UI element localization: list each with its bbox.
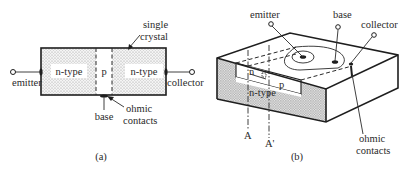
base-p-label: p	[101, 66, 106, 77]
base-label: base	[95, 111, 114, 122]
section-a-prime-label: A'	[265, 138, 275, 149]
ohmic-contacts-label-line1: ohmic	[359, 133, 386, 144]
base-terminal-icon	[336, 25, 341, 30]
ohmic-contacts-label-line2: contacts	[123, 115, 157, 126]
emitter-terminal-icon	[11, 70, 16, 75]
figure-a: n-type p n-type emitter collector base s…	[11, 19, 205, 163]
collector-terminal-icon	[372, 33, 377, 38]
base-label: base	[333, 9, 352, 20]
emitter-label: emitter	[12, 77, 42, 88]
single-crystal-label-line2: crystal	[140, 31, 168, 42]
section-a-label: A	[244, 130, 252, 141]
caption-b: (b)	[291, 151, 304, 163]
collector-n-type-label: n-type	[249, 87, 276, 98]
ohmic-contacts-label-line1: ohmic	[126, 103, 153, 114]
emitter-contact-icon	[39, 69, 42, 76]
caption-a: (a)	[95, 151, 107, 163]
base-p-label: p	[279, 79, 284, 90]
emitter-terminal-icon	[269, 22, 274, 27]
emitter-n-label: n	[249, 66, 255, 77]
emitter-label: emitter	[250, 9, 280, 20]
collector-n-type-label: n-type	[131, 66, 158, 77]
figure-b: emitter base collector n p n-type A A' o…	[217, 9, 398, 163]
collector-label: collector	[167, 77, 204, 88]
emitter-n-type-label: n-type	[56, 66, 83, 77]
collector-label: collector	[361, 19, 398, 30]
single-crystal-label-line1: single	[143, 19, 168, 30]
collector-terminal-icon	[190, 70, 195, 75]
ohmic-contacts-label-line2: contacts	[356, 145, 390, 156]
collector-contact-icon	[164, 69, 167, 76]
bjt-structure-diagram: n-type p n-type emitter collector base s…	[0, 0, 410, 172]
